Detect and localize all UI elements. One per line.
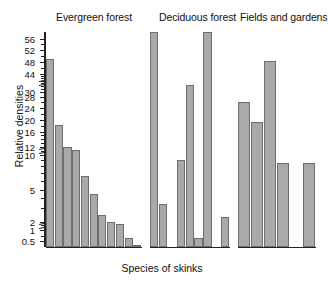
panel-fields-and-gardens <box>238 32 316 251</box>
panel-title-evergreen-forest: Evergreen forest <box>56 11 132 23</box>
y-minor-tick <box>41 102 44 103</box>
bar <box>81 176 89 247</box>
y-tick-28: 28 <box>40 97 44 98</box>
bar <box>238 102 250 247</box>
panel-deciduous-forest <box>150 32 230 251</box>
bar <box>72 150 80 246</box>
bar <box>116 224 124 246</box>
y-minor-tick <box>41 56 44 57</box>
bar <box>125 238 133 247</box>
y-minor-tick <box>41 173 44 174</box>
y-minor-tick <box>41 139 44 140</box>
y-minor-tick <box>41 198 44 199</box>
bar <box>303 163 315 247</box>
y-minor-tick <box>41 76 44 77</box>
bar <box>264 61 276 246</box>
y-tick-label-12: 12 <box>24 143 35 152</box>
bar <box>177 160 185 247</box>
y-tick-5: 5 <box>40 190 44 191</box>
y-tick-label-44: 44 <box>24 70 35 79</box>
bar <box>203 32 211 247</box>
panel-title-deciduous-forest: Deciduous forest <box>159 11 236 23</box>
y-tick-16: 16 <box>40 132 44 133</box>
y-tick-label-24: 24 <box>24 104 35 113</box>
bar <box>150 32 158 247</box>
y-tick-label-16: 16 <box>24 128 35 137</box>
y-tick-44: 44 <box>40 74 44 75</box>
panel-baseline <box>150 247 230 249</box>
y-minor-tick <box>41 86 44 87</box>
y-tick-label-0-5: 0.5 <box>22 237 35 246</box>
y-minor-tick <box>41 44 44 45</box>
bar <box>133 245 141 247</box>
y-tick-label-56: 56 <box>24 35 35 44</box>
bar <box>90 194 98 246</box>
y-tick-1: 1 <box>40 230 44 231</box>
y-minor-tick <box>41 126 44 127</box>
y-tick-label-20: 20 <box>24 116 35 125</box>
y-minor-tick <box>41 208 44 209</box>
y-tick-48: 48 <box>40 62 44 63</box>
y-tick-56: 56 <box>40 39 44 40</box>
y-tick-label-30: 30 <box>24 88 35 97</box>
bar <box>55 125 63 246</box>
y-minor-tick <box>41 135 44 136</box>
y-tick-label-5: 5 <box>30 186 35 195</box>
x-axis-label: Species of skinks <box>0 262 324 274</box>
panel-baseline <box>46 247 142 249</box>
panel-title-fields-and-gardens: Fields and gardens <box>240 11 328 23</box>
bar <box>98 215 106 246</box>
y-minor-tick <box>41 89 44 90</box>
bar <box>194 238 202 247</box>
y-minor-tick <box>41 160 44 161</box>
y-tick-10: 10 <box>40 155 44 156</box>
bar <box>251 122 263 246</box>
panel-titles: Evergreen forest Deciduous forest Fields… <box>0 11 324 27</box>
y-minor-tick <box>41 181 44 182</box>
y-minor-tick <box>41 114 44 115</box>
panel-baseline <box>238 247 316 249</box>
y-tick-30: 30 <box>40 92 44 93</box>
bar <box>63 147 71 246</box>
y-axis-label: Relative densities <box>13 71 25 181</box>
plot-area: 0.51251012162024283044485256 <box>44 32 316 250</box>
bar <box>107 222 115 247</box>
bar <box>46 59 54 247</box>
bar <box>221 217 229 247</box>
bar <box>277 163 289 247</box>
y-tick-label-48: 48 <box>24 58 35 67</box>
bar <box>159 204 167 246</box>
y-minor-tick <box>41 166 44 167</box>
panel-evergreen-forest <box>46 32 142 251</box>
y-tick-label-2: 2 <box>30 218 35 227</box>
bar <box>186 85 194 246</box>
y-tick-20: 20 <box>40 120 44 121</box>
y-minor-tick <box>41 68 44 69</box>
y-minor-tick <box>41 143 44 144</box>
y-tick-24: 24 <box>40 108 44 109</box>
y-minor-tick <box>41 236 44 237</box>
y-tick-0-5: 0.5 <box>40 241 44 242</box>
y-tick-label-52: 52 <box>24 46 35 55</box>
y-tick-52: 52 <box>40 50 44 51</box>
